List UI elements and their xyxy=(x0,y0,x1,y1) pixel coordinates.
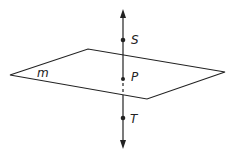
label-t: T xyxy=(130,113,137,125)
arrow-down-icon xyxy=(120,140,126,149)
diagram-svg xyxy=(0,0,235,159)
diagram-canvas: S P T m xyxy=(0,0,235,159)
point-p xyxy=(121,77,125,81)
point-t xyxy=(121,116,126,121)
arrow-up-icon xyxy=(120,9,126,18)
label-s: S xyxy=(131,34,139,46)
point-s xyxy=(121,38,126,43)
label-p: P xyxy=(131,71,138,83)
label-plane-m: m xyxy=(37,67,49,79)
